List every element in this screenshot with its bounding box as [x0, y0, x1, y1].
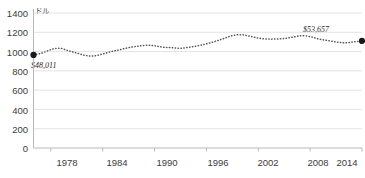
plot-area [0, 0, 365, 178]
end-marker [359, 38, 365, 44]
axis-lines [34, 9, 363, 148]
endpoint-markers [30, 38, 365, 58]
series-line-dollars [34, 35, 363, 56]
x-axis-ticks [51, 148, 362, 152]
line-chart: ドル 1400 1200 1000 800 600 400 200 0 1978… [0, 0, 365, 178]
gridlines [34, 13, 363, 129]
start-marker [30, 52, 36, 58]
